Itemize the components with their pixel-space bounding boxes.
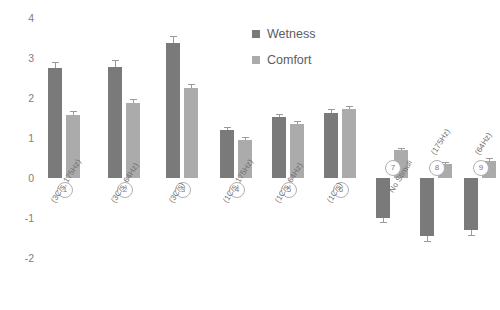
- group-number-badge: 9: [473, 160, 489, 176]
- legend-item: Wetness: [252, 28, 315, 41]
- bar-comfort: [342, 109, 356, 178]
- error-bar-cap: [52, 62, 59, 63]
- bar-group: 3(3C/s): [164, 0, 206, 310]
- error-bar-cap: [424, 241, 431, 242]
- bar-wetness: [166, 43, 180, 178]
- error-bar-cap: [188, 84, 195, 85]
- y-axis-tick-label: 2: [12, 93, 34, 104]
- x-axis-tick-label: (64Hz): [474, 132, 494, 157]
- bar-wetness: [108, 67, 122, 178]
- bar-comfort: [184, 88, 198, 178]
- y-axis-tick-label: 4: [12, 13, 34, 24]
- error-bar-cap: [468, 235, 475, 236]
- legend-label: Comfort: [267, 54, 311, 67]
- bar-group: 1(3C/s, 175Hz): [46, 0, 88, 310]
- bar-wetness: [48, 68, 62, 178]
- y-axis-tick-label: -1: [12, 213, 34, 224]
- error-bar-cap: [70, 111, 77, 112]
- legend-label: Wetness: [267, 28, 315, 41]
- error-bar-cap: [398, 148, 405, 149]
- bar-group: 9(64Hz): [462, 0, 500, 310]
- legend-swatch-icon: [252, 56, 260, 64]
- error-bar-cap: [112, 60, 119, 61]
- bar-group: 2(3C/s, 64Hz): [106, 0, 148, 310]
- bar-wetness: [420, 178, 434, 236]
- bar-group: 8(175Hz): [418, 0, 460, 310]
- legend-swatch-icon: [252, 30, 260, 38]
- group-number-badge: 8: [429, 160, 445, 176]
- y-axis-tick-label: 3: [12, 53, 34, 64]
- error-bar: [173, 36, 174, 43]
- bar-wetness: [220, 130, 234, 178]
- error-bar-cap: [328, 109, 335, 110]
- x-axis-tick-label: (175Hz): [430, 128, 452, 156]
- legend-item: Comfort: [252, 54, 315, 67]
- bar-group: 7No Stimuli: [374, 0, 416, 310]
- bar-wetness: [376, 178, 390, 218]
- y-axis: 43210-1-2: [0, 0, 34, 310]
- bar-group: 6(1C/s): [322, 0, 364, 310]
- error-bar-cap: [130, 99, 137, 100]
- y-axis-tick-label: 0: [12, 173, 34, 184]
- error-bar-cap: [276, 114, 283, 115]
- bar-wetness: [324, 113, 338, 178]
- bar-wetness: [272, 117, 286, 178]
- error-bar-cap: [380, 222, 387, 223]
- y-axis-tick-label: -2: [12, 253, 34, 264]
- error-bar-cap: [242, 137, 249, 138]
- y-axis-tick-label: 1: [12, 133, 34, 144]
- error-bar-cap: [346, 106, 353, 107]
- error-bar-cap: [294, 121, 301, 122]
- error-bar-cap: [170, 36, 177, 37]
- bar-wetness: [464, 178, 478, 230]
- error-bar-cap: [486, 158, 493, 159]
- error-bar-cap: [224, 127, 231, 128]
- chart-legend: WetnessComfort: [252, 28, 315, 79]
